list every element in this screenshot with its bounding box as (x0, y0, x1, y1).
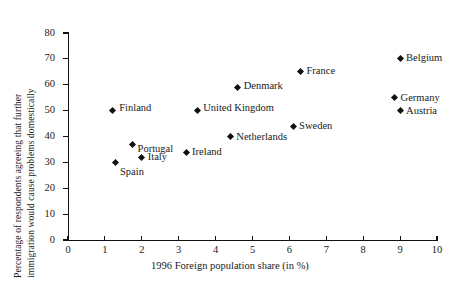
x-tick-mark (436, 236, 437, 241)
y-tick-label: 80 (35, 28, 55, 38)
y-tick-label-wrap: 60 (0, 79, 63, 89)
y-tick-label: 20 (35, 183, 55, 193)
data-point-marker (391, 94, 398, 101)
data-point-label: Spain (120, 166, 144, 177)
y-tick-mark (63, 84, 69, 85)
data-point-marker (227, 133, 234, 140)
data-point-marker (138, 154, 145, 161)
x-tick-mark (326, 236, 327, 241)
data-point-label: United Kingdom (203, 102, 274, 113)
data-point-marker (194, 107, 201, 114)
x-tick-mark (400, 236, 401, 241)
y-tick-label-wrap: 10 (0, 209, 63, 219)
y-tick-label: 30 (35, 157, 55, 167)
data-point-label: Belgium (406, 52, 442, 63)
y-tick-mark (63, 58, 69, 59)
y-tick-label: 60 (35, 79, 55, 89)
data-point-marker (129, 141, 136, 148)
x-tick-label: 3 (167, 244, 191, 255)
x-tick-label: 0 (56, 244, 80, 255)
data-point-label: Austria (406, 105, 437, 116)
x-tick-mark (252, 236, 253, 241)
data-point-label: Italy (148, 151, 167, 162)
y-tick-mark (63, 136, 69, 137)
x-tick-label: 7 (314, 244, 338, 255)
data-point-label: Germany (401, 92, 440, 103)
data-point-marker (109, 107, 116, 114)
y-tick-label: 70 (35, 53, 55, 63)
x-tick-label: 6 (277, 244, 301, 255)
y-tick-label-wrap: 0 (0, 235, 63, 245)
y-tick-label-wrap: 70 (0, 53, 63, 63)
y-tick-mark (63, 188, 69, 189)
y-tick-mark (63, 214, 69, 215)
data-point-label: Netherlands (236, 131, 287, 142)
x-tick-label: 8 (351, 244, 375, 255)
data-point-label: Finland (119, 102, 151, 113)
x-tick-label: 2 (130, 244, 154, 255)
x-tick-mark (289, 236, 290, 241)
y-tick-label: 50 (35, 105, 55, 115)
scatter-chart: Percentage of respondents agreeing that … (0, 0, 460, 292)
data-point-marker (397, 55, 404, 62)
x-tick-mark (178, 236, 179, 241)
y-tick-label-wrap: 20 (0, 183, 63, 193)
y-tick-mark (63, 32, 69, 33)
data-point-label: Denmark (244, 80, 283, 91)
data-point-marker (183, 148, 190, 155)
y-tick-mark (63, 162, 69, 163)
x-tick-label: 9 (388, 244, 412, 255)
x-axis-title: 1996 Foreign population share (in %) (0, 260, 460, 271)
x-tick-mark (363, 236, 364, 241)
x-tick-mark (215, 236, 216, 241)
x-tick-label: 4 (204, 244, 228, 255)
y-tick-label: 10 (35, 209, 55, 219)
x-tick-label: 5 (241, 244, 265, 255)
x-tick-mark (141, 236, 142, 241)
y-tick-label-wrap: 50 (0, 105, 63, 115)
y-tick-label: 0 (35, 235, 55, 245)
y-tick-label: 40 (35, 131, 55, 141)
data-point-marker (297, 68, 304, 75)
y-tick-label-wrap: 40 (0, 131, 63, 141)
data-point-marker (112, 159, 119, 166)
y-tick-label-wrap: 30 (0, 157, 63, 167)
data-point-marker (397, 107, 404, 114)
data-point-marker (234, 84, 241, 91)
data-point-label: Ireland (192, 146, 222, 157)
data-point-label: Sweden (299, 120, 332, 131)
data-point-label: France (306, 65, 335, 76)
x-tick-label: 10 (425, 244, 449, 255)
x-tick-mark (67, 236, 68, 241)
x-tick-label: 1 (93, 244, 117, 255)
y-tick-mark (63, 110, 69, 111)
y-tick-label-wrap: 80 (0, 28, 63, 38)
x-tick-mark (104, 236, 105, 241)
data-point-marker (290, 123, 297, 130)
